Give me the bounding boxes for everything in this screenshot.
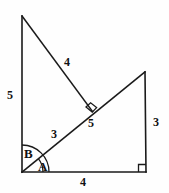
upper-diagonal-side <box>22 16 93 112</box>
long-diagonal-side <box>22 72 145 172</box>
label-bottom-side-4: 4 <box>80 176 86 188</box>
geometry-canvas <box>0 0 169 193</box>
label-upper-diagonal-5: 5 <box>88 117 94 129</box>
geometry-figure: 5 4 3 5 3 4 B A <box>0 0 169 193</box>
label-left-side-5: 5 <box>7 89 13 101</box>
label-upper-diagonal-4: 4 <box>64 56 70 68</box>
right-vertical-side <box>145 72 146 172</box>
label-right-side-3: 3 <box>153 116 159 128</box>
label-lower-diagonal-3: 3 <box>51 128 57 140</box>
right-angle-mark-bottom-right <box>139 165 147 173</box>
angle-label-a: A <box>38 160 47 173</box>
angle-label-b: B <box>24 147 33 160</box>
